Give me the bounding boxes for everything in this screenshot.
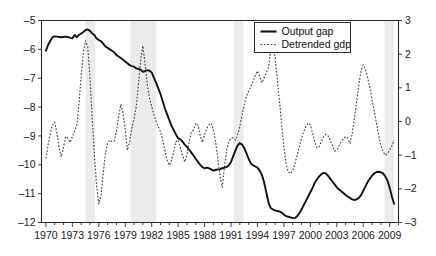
x-axis-tick-label: 1970	[34, 229, 58, 241]
x-axis-tick-label: 1985	[166, 229, 190, 241]
recession-band	[234, 21, 244, 223]
x-axis-tick-label: 2003	[325, 229, 349, 241]
legend-label-output-gap: Output gap	[282, 25, 334, 37]
y2-axis-tick-label: –3	[405, 216, 417, 228]
x-axis-tick-label: 1997	[272, 229, 296, 241]
x-axis-tick-label: 2009	[378, 229, 402, 241]
x-axis-tick-label: 1994	[246, 229, 270, 241]
y-axis-tick-label: –5	[24, 14, 36, 26]
y-axis-tick-label: –8	[24, 101, 36, 113]
y2-axis-tick-label: 3	[405, 14, 411, 26]
recession-band	[384, 21, 394, 223]
output-gap-detrended-gdp-chart: –5–6–7–8–9–10–11–123210–1–2–319701973197…	[0, 0, 436, 256]
legend-label-detrended-gdp: Detrended gdp	[282, 38, 352, 50]
y-axis-tick-label: –7	[24, 72, 36, 84]
y-axis-tick-label: –12	[18, 216, 36, 228]
x-axis-tick-label: 1973	[61, 229, 85, 241]
x-axis-tick-label: 1976	[87, 229, 111, 241]
y-axis-tick-label: –9	[24, 130, 36, 142]
recession-band	[86, 21, 96, 223]
y2-axis-tick-label: –1	[405, 149, 417, 161]
x-axis-tick-label: 1982	[140, 229, 164, 241]
x-axis-tick-label: 2000	[299, 229, 323, 241]
chart-legend[interactable]: Output gapDetrended gdp	[255, 23, 352, 53]
x-axis-tick-label: 1979	[114, 229, 138, 241]
x-axis-tick-label: 1991	[219, 229, 243, 241]
y2-axis-tick-label: –2	[405, 182, 417, 194]
x-axis-tick-label: 2006	[352, 229, 376, 241]
y-axis-tick-label: –11	[19, 187, 36, 199]
y2-axis-tick-label: 1	[405, 81, 411, 93]
y-axis-tick-label: –6	[24, 43, 36, 55]
y2-axis-tick-label: 2	[405, 48, 411, 60]
chart-background	[0, 0, 436, 256]
y2-axis-tick-label: 0	[405, 115, 411, 127]
y-axis-tick-label: –10	[18, 158, 36, 170]
chart-container: –5–6–7–8–9–10–11–123210–1–2–319701973197…	[0, 0, 436, 256]
x-axis-tick-label: 1988	[193, 229, 217, 241]
